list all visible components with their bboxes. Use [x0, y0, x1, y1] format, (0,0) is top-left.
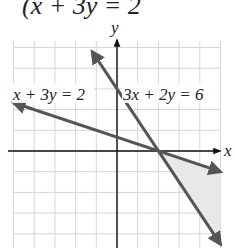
line-series-1 [92, 52, 220, 245]
x-axis-label: x [223, 141, 232, 160]
graph-figure: (x + 3y = 2 x y x + 3y = 2 3x + 2y = 6 [0, 0, 235, 248]
header-equation: (x + 3y = 2 [22, 0, 141, 20]
line-label-x-plus-3y: x + 3y = 2 [12, 85, 86, 104]
line-label-3x-plus-2y: 3x + 2y = 6 [122, 85, 204, 104]
axes [8, 40, 220, 248]
y-axis-label: y [109, 18, 119, 37]
